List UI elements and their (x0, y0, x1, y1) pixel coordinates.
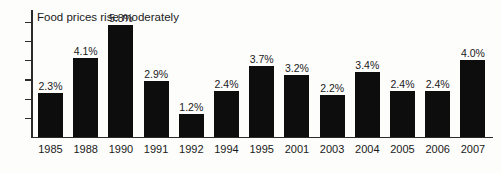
x-axis-tick-label: 1994 (208, 143, 245, 155)
bar (355, 72, 380, 137)
y-axis-tick (25, 118, 31, 119)
x-axis-tick-label: 1988 (67, 143, 104, 155)
bar-group: 5.8% (108, 10, 133, 137)
x-axis-tick-label: 1991 (138, 143, 175, 155)
bar-group: 1.2% (179, 10, 204, 137)
bar (179, 114, 204, 137)
y-axis-tick (25, 22, 31, 23)
bar (460, 60, 485, 137)
bar-value-label: 5.8% (102, 12, 139, 24)
y-axis-tick (25, 79, 31, 80)
bar-group: 4.0% (460, 10, 485, 137)
bar-group: 3.2% (284, 10, 309, 137)
bar-value-label: 2.4% (419, 78, 456, 90)
x-axis-tick-label: 2007 (454, 143, 491, 155)
bar (108, 25, 133, 137)
plot-area: 2.3%4.1%5.8%2.9%1.2%2.4%3.7%3.2%2.2%3.4%… (32, 10, 493, 137)
bar (38, 93, 63, 137)
x-axis-tick-labels: 1985198819901991199219941995200120032004… (32, 143, 493, 159)
x-axis-tick-label: 2001 (278, 143, 315, 155)
y-axis-tick (25, 99, 31, 100)
bar-value-label: 4.1% (67, 45, 104, 57)
x-axis-tick-label: 1985 (32, 143, 69, 155)
bar (425, 91, 450, 137)
x-axis-tick-label: 1995 (243, 143, 280, 155)
bar (320, 95, 345, 137)
x-axis-tick-label: 1992 (173, 143, 210, 155)
bar (214, 91, 239, 137)
y-axis-tick (25, 41, 31, 42)
x-axis-tick-label: 2006 (419, 143, 456, 155)
bar (284, 75, 309, 137)
bar (249, 66, 274, 137)
bar-value-label: 2.3% (32, 80, 69, 92)
bar-value-label: 2.9% (138, 68, 175, 80)
bar-group: 3.4% (355, 10, 380, 137)
bar-value-label: 2.2% (314, 82, 351, 94)
bar-group: 2.3% (38, 10, 63, 137)
bar-value-label: 4.0% (454, 47, 491, 59)
bar-value-label: 3.4% (349, 59, 386, 71)
bar-value-label: 2.4% (384, 78, 421, 90)
y-axis-tick (25, 60, 31, 61)
x-axis-tick-label: 2004 (349, 143, 386, 155)
bar-group: 2.4% (390, 10, 415, 137)
bar (144, 81, 169, 137)
bar-value-label: 3.7% (243, 53, 280, 65)
x-axis-tick-label: 2003 (314, 143, 351, 155)
bar-group: 4.1% (73, 10, 98, 137)
x-axis-tick-label: 1990 (102, 143, 139, 155)
bar-group: 2.4% (425, 10, 450, 137)
bar-group: 2.2% (320, 10, 345, 137)
bar-group: 2.4% (214, 10, 239, 137)
x-axis-tick-label: 2005 (384, 143, 421, 155)
bar-value-label: 1.2% (173, 101, 210, 113)
bar-chart: CPI, annual averages Food prices rise mo… (0, 0, 501, 173)
bar-value-label: 3.2% (278, 62, 315, 74)
bar-group: 2.9% (144, 10, 169, 137)
bar (73, 58, 98, 137)
bar (390, 91, 415, 137)
bar-value-label: 2.4% (208, 78, 245, 90)
bar-group: 3.7% (249, 10, 274, 137)
